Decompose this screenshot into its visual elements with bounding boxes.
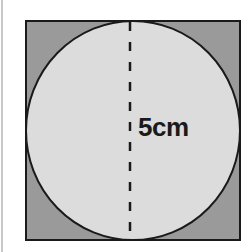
inscribed-circle <box>26 21 240 240</box>
diameter-label: 5cm <box>138 112 189 143</box>
diagram-canvas <box>0 0 252 252</box>
